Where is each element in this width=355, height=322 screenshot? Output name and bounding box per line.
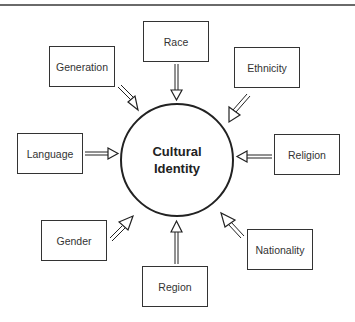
arrow-language <box>85 148 118 159</box>
arrow-religion <box>237 151 272 162</box>
cultural-identity-circle: Cultural Identity <box>120 103 234 217</box>
arrow-region <box>171 221 182 264</box>
factor-box-religion: Religion <box>274 134 340 175</box>
factor-label: Ethnicity <box>247 62 287 74</box>
factor-box-nationality: Nationality <box>247 229 313 270</box>
factor-label: Religion <box>288 149 326 161</box>
factor-box-region: Region <box>142 266 208 307</box>
factor-label: Race <box>164 36 189 48</box>
center-label-line2: Identity <box>154 160 200 177</box>
factor-label: Gender <box>56 235 91 247</box>
factor-box-generation: Generation <box>49 46 115 87</box>
factor-box-ethnicity: Ethnicity <box>234 47 300 88</box>
factor-label: Region <box>158 281 191 293</box>
factor-box-race: Race <box>143 21 209 62</box>
factor-label: Language <box>27 148 74 160</box>
arrow-race <box>171 64 182 100</box>
factor-label: Nationality <box>255 244 304 256</box>
arrow-generation <box>118 85 138 110</box>
factor-box-gender: Gender <box>41 220 107 261</box>
arrow-nationality <box>221 213 244 238</box>
factor-label: Generation <box>56 61 108 73</box>
center-label-line1: Cultural <box>152 143 201 160</box>
arrow-gender <box>110 216 133 241</box>
arrow-ethnicity <box>229 94 250 122</box>
factor-box-language: Language <box>17 133 83 174</box>
